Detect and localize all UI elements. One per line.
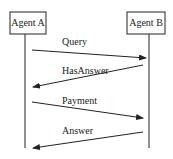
arrow — [32, 50, 146, 58]
participant-label: Agent B — [129, 17, 163, 28]
message-payment: Payment — [32, 95, 143, 118]
message-label: Answer — [62, 125, 94, 136]
message-label: Payment — [62, 95, 97, 106]
participant-agent-a: Agent A — [10, 12, 46, 148]
message-hasanswer: HasAnswer — [33, 65, 143, 87]
message-query: Query — [32, 36, 146, 58]
message-answer: Answer — [33, 125, 143, 148]
message-label: Query — [62, 36, 87, 47]
participant-label: Agent A — [11, 17, 45, 28]
participant-agent-b: Agent B — [127, 12, 165, 148]
sequence-diagram: Agent A Agent B Query HasAnswer Payment … — [0, 0, 173, 159]
message-label: HasAnswer — [62, 65, 109, 76]
